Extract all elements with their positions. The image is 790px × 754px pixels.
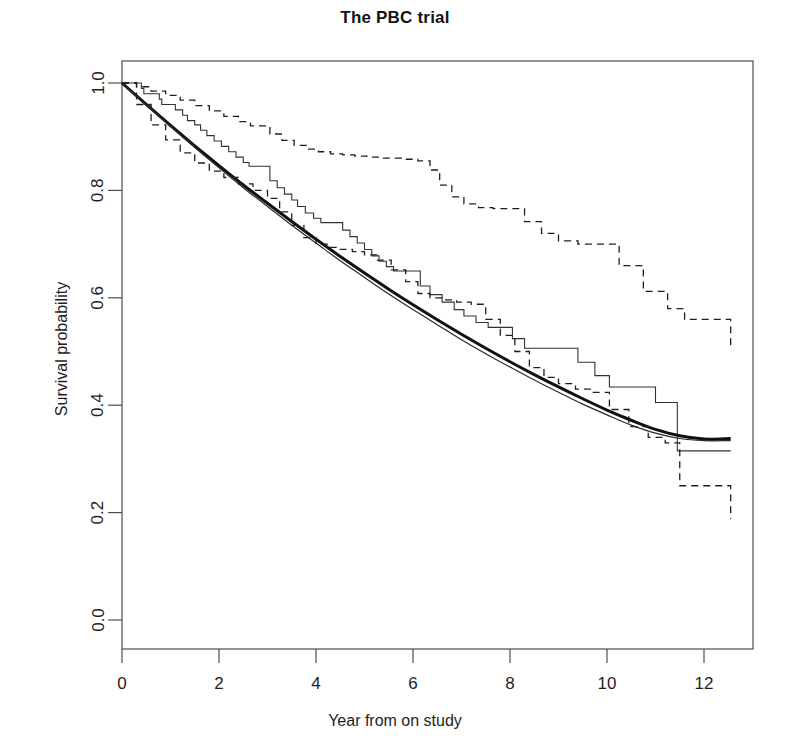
x-tick-label: 6: [408, 674, 417, 693]
y-tick-label: 0.8: [89, 179, 108, 203]
axis-layer: [108, 61, 753, 663]
series-4: [122, 83, 731, 519]
series-1: [122, 83, 731, 439]
x-tick-label: 10: [598, 674, 617, 693]
x-tick-label: 2: [214, 674, 223, 693]
y-axis-label: Survival probability: [53, 79, 71, 619]
x-axis-label: Year from on study: [0, 712, 790, 730]
x-tick-label: 12: [695, 674, 714, 693]
series-3: [122, 83, 731, 348]
y-tick-label: 0.6: [89, 286, 108, 310]
plot-box: [122, 61, 753, 649]
y-tick-label: 0.2: [89, 501, 108, 525]
series-layer: [122, 83, 731, 519]
survival-plot: 0246810120.00.20.40.60.81.0: [0, 0, 790, 754]
y-tick-label: 0.0: [89, 608, 108, 632]
chart-figure: The PBC trial 0246810120.00.20.40.60.81.…: [0, 0, 790, 754]
x-tick-label: 4: [311, 674, 320, 693]
x-tick-label: 8: [505, 674, 514, 693]
series-0: [122, 83, 731, 451]
tick-label-layer: 0246810120.00.20.40.60.81.0: [89, 71, 714, 693]
x-tick-label: 0: [117, 674, 126, 693]
y-tick-label: 0.4: [89, 393, 108, 417]
y-tick-label: 1.0: [89, 71, 108, 95]
